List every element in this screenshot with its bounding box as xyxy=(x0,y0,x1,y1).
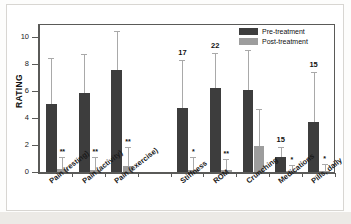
x-tick-mark xyxy=(171,173,172,177)
significance-marker: ** xyxy=(60,148,65,155)
error-bar-post xyxy=(259,109,260,147)
error-bar-cap-pre xyxy=(114,31,120,32)
error-bar-cap-post xyxy=(59,157,65,158)
error-bar-pre xyxy=(182,60,183,108)
legend-item-post: Post-treatment xyxy=(239,38,337,45)
group-count-label: 22 xyxy=(211,42,219,50)
error-bar-cap-post xyxy=(223,159,229,160)
significance-marker: ** xyxy=(92,148,97,155)
error-bar-pre xyxy=(51,58,52,104)
chart-legend: Pre-treatment Post-treatment xyxy=(239,28,337,48)
error-bar-cap-pre xyxy=(212,53,218,54)
x-tick-mark xyxy=(105,173,106,177)
error-bar-cap-post xyxy=(190,157,196,158)
error-bar-pre xyxy=(314,72,315,121)
legend-swatch-post-icon xyxy=(239,38,258,45)
error-bar-pre xyxy=(281,147,282,157)
error-bar-pre xyxy=(84,54,85,92)
y-tick-label: 10 xyxy=(13,33,29,41)
figure-bottom-shade xyxy=(0,212,351,224)
bar-pre-treatment xyxy=(243,90,254,172)
error-bar-cap-post xyxy=(256,109,262,110)
legend-label-post: Post-treatment xyxy=(262,38,308,45)
error-bar-cap-pre xyxy=(245,50,251,51)
error-bar-post xyxy=(226,159,227,169)
error-bar-post xyxy=(128,147,129,166)
error-bar-pre xyxy=(117,31,118,71)
error-bar-cap-post xyxy=(125,147,131,148)
chart-figure: RATING 0246810 *******17**2221*15*15 Pai… xyxy=(0,0,351,224)
x-tick-mark xyxy=(335,173,336,177)
y-tick-label: 8 xyxy=(13,60,29,68)
x-tick-mark xyxy=(236,173,237,177)
error-bar-cap-pre xyxy=(311,72,317,73)
error-bar-cap-pre xyxy=(179,60,185,61)
y-tick-label: 2 xyxy=(13,141,29,149)
group-count-label: 17 xyxy=(178,49,186,57)
x-tick-mark xyxy=(203,173,204,177)
significance-marker: * xyxy=(290,156,293,163)
error-bar-cap-pre xyxy=(81,54,87,55)
legend-swatch-pre-icon xyxy=(239,28,258,35)
group-count-label: 15 xyxy=(277,136,285,144)
legend-item-pre: Pre-treatment xyxy=(239,28,337,35)
error-bar-pre xyxy=(248,50,249,90)
significance-marker: ** xyxy=(224,150,229,157)
error-bar-cap-pre xyxy=(278,147,284,148)
significance-marker: * xyxy=(192,148,195,155)
y-tick-label: 4 xyxy=(13,114,29,122)
error-bar-cap-pre xyxy=(48,58,54,59)
x-tick-mark xyxy=(138,173,139,177)
x-tick-mark xyxy=(269,173,270,177)
group-count-label: 15 xyxy=(309,61,317,69)
y-tick-label: 0 xyxy=(13,168,29,176)
bar-pre-treatment xyxy=(308,122,319,172)
x-tick-mark xyxy=(72,173,73,177)
legend-label-pre: Pre-treatment xyxy=(262,28,305,35)
significance-marker: ** xyxy=(125,138,130,145)
bar-pre-treatment xyxy=(210,88,221,172)
y-tick-label: 6 xyxy=(13,87,29,95)
significance-marker: * xyxy=(323,155,326,162)
bar-pre-treatment xyxy=(46,104,57,172)
error-bar-cap-post xyxy=(92,157,98,158)
x-tick-mark xyxy=(302,173,303,177)
bar-pre-treatment xyxy=(177,108,188,172)
error-bar-pre xyxy=(215,53,216,88)
